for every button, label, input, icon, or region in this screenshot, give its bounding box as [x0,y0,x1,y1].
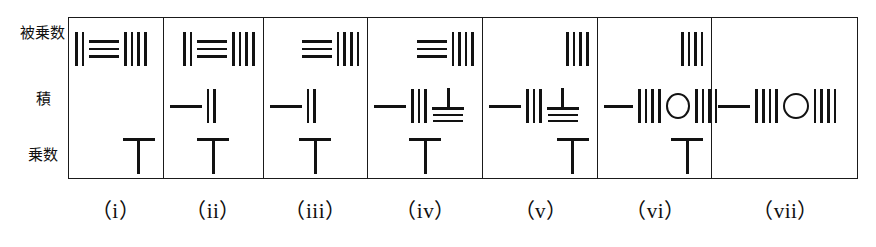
rod-vertical-bars-icon [307,89,316,123]
rod-numeral-product [368,80,482,132]
rod-vertical-bars-icon [755,89,777,123]
caption-step-iv: （iv） [368,186,483,242]
caption-step-vi: （vi） [598,186,713,242]
caption-step-vii: （vii） [713,186,858,242]
rod-stroke [313,89,316,123]
rod-stroke [586,32,589,66]
rod-vertical-bars-icon [232,32,254,66]
rod-stroke [197,55,227,58]
rod-vertical-bars-icon [124,32,146,66]
rod-stroke [418,89,421,123]
rod-vertical-bars-icon [411,89,427,123]
rod-stroke [566,32,569,66]
caption-step-ii: （ii） [163,186,263,242]
rod-stroke [417,40,447,43]
rod-vertical-bars-icon [75,32,84,66]
rod-stroke [212,138,215,174]
rod-stroke [695,89,698,123]
rod-stroke [452,32,455,66]
panel-step-vi [598,18,713,178]
rod-numeral-multiplier [264,132,368,180]
panel-vii-row-multiplier [712,132,857,180]
rod-stroke [137,32,140,66]
rod-stroke [197,40,227,43]
rod-numeral-product [164,80,263,132]
panel-vi-row-multiplier [598,132,712,180]
rod-stroke [694,32,697,66]
rod-numeral-multiplicand [712,20,857,78]
rod-stroke [232,32,235,66]
rod-numeral-product [598,80,718,132]
row-label-multiplier: 乗数 [18,147,68,164]
panel-step-iv [368,18,483,178]
rod-stroke [424,89,427,123]
rod-stroke [302,48,332,51]
rod-tee-icon [409,138,441,174]
rod-stroke [245,32,248,66]
panel-step-vii [712,18,857,178]
rod-vertical-bars-icon [566,32,588,66]
rod-numeral-multiplier [483,132,597,180]
panel-i-row-multiplicand [69,20,163,78]
rod-tee-icon [197,138,229,174]
panel-iv-row-product [368,80,482,132]
rod-numeral-multiplier [164,132,263,180]
rod-stroke [539,89,542,123]
rod-vertical-bars-icon [452,32,474,66]
rod-stroke [213,89,216,123]
rod-stroke [834,89,837,123]
rod-stroke [144,32,147,66]
panel-track [69,18,857,178]
panel-iv-row-multiplier [368,132,482,180]
rod-stroke [561,88,564,108]
caption-track: （i）（ii）（iii）（iv）（v）（vi）（vii） [68,186,858,234]
rod-stroke [571,138,574,174]
rod-vertical-bars-icon [638,89,660,123]
rod-stroke [252,32,255,66]
rod-stroke [89,55,119,58]
rod-stroke [432,107,464,110]
caption-step-v: （v） [483,186,598,242]
rod-stroke [548,114,578,116]
rod-stroke [239,32,242,66]
rod-dash-icon [270,105,302,108]
rod-zero-circle-icon [783,93,809,119]
rod-stroke [471,32,474,66]
rod-tee-icon [557,138,589,174]
rod-dash-icon [718,105,750,108]
panel-frame [68,17,858,179]
rod-stroke [424,138,427,174]
panel-iii-row-product [264,80,368,132]
rod-numeral-multiplicand [69,20,163,78]
rod-stroke [417,48,447,51]
rod-stroke [190,32,193,66]
panel-step-i [69,18,164,178]
rod-stroke [433,114,463,116]
rod-numeral-product [483,80,597,132]
rod-stroke [775,89,778,123]
rod-numeral-multiplicand [164,20,263,78]
rod-stroke [638,89,641,123]
rod-dash-icon [374,105,406,108]
rod-horizontal-bars-icon [89,32,119,66]
rod-stroke [769,89,772,123]
rod-stroke [411,89,414,123]
rod-stroke [681,32,684,66]
rod-dash-icon [489,105,521,108]
rod-stroke [302,55,332,58]
rod-stroke [701,32,704,66]
rod-horizontal-bars-icon [197,32,227,66]
rod-numeral-product [264,80,368,132]
rod-stroke [131,32,134,66]
rod-tee-icon [671,138,703,174]
rod-tee-icon [123,138,155,174]
rod-numeral-product [712,80,857,132]
panel-vi-row-multiplicand [598,20,712,78]
rod-stroke [645,89,648,123]
rod-stroke [75,32,78,66]
rod-stroke [573,32,576,66]
rod-stroke [137,138,140,174]
rod-vertical-bars-icon [681,32,703,66]
panel-step-iii [264,18,369,178]
rod-horizontal-bars-icon [417,32,447,66]
